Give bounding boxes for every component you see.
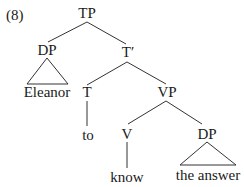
branch-vp-dp [166, 101, 202, 124]
triangle-dp-subject [27, 58, 68, 84]
node-v: V [122, 127, 133, 142]
example-number: (8) [6, 8, 24, 23]
branch-tbar-vp [127, 62, 166, 84]
syntax-tree-diagram: (8) TP DP T′ Eleanor T VP to V DP know t… [0, 0, 244, 187]
node-t-bar: T′ [122, 45, 134, 60]
node-vp: VP [157, 85, 176, 100]
node-dp-subject: DP [37, 43, 56, 58]
branch-tp-tbar [87, 22, 126, 44]
branch-vp-v [128, 101, 166, 124]
triangle-dp-object [180, 142, 236, 165]
branch-tp-dp [48, 22, 87, 42]
node-dp-object: DP [197, 127, 216, 142]
terminal-eleanor: Eleanor [24, 85, 71, 100]
node-t: T [82, 85, 91, 100]
terminal-know: know [110, 170, 143, 185]
terminal-to: to [82, 128, 94, 143]
node-tp: TP [78, 6, 96, 21]
branch-tbar-t [87, 62, 127, 85]
terminal-the-answer: the answer [176, 168, 241, 183]
